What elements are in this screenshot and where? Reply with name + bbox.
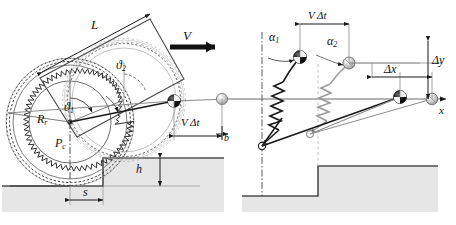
- label-travel-right: V Δt: [308, 10, 326, 21]
- alpha1-leader: [268, 58, 294, 61]
- theta1-sub: 1: [70, 106, 74, 115]
- Pc-sub: c: [62, 142, 66, 151]
- label-alpha2: α2: [327, 35, 337, 49]
- travel-right-v: V: [308, 9, 315, 21]
- spring-assembly-1: [262, 58, 299, 145]
- label-delta-x: Δx: [384, 63, 396, 75]
- travel-left-v: V: [181, 116, 188, 128]
- label-arm-length: L: [91, 18, 98, 31]
- label-x-axis: x: [439, 105, 444, 116]
- label-travel-left: V Δt: [181, 117, 199, 128]
- label-wheel-radius: Rr: [37, 113, 47, 127]
- dimension-v-dt-right: [300, 24, 349, 63]
- travel-right-dt: Δt: [317, 9, 327, 21]
- label-wheel-center: Pc: [55, 137, 66, 151]
- label-theta2: ϑ2: [116, 59, 126, 73]
- travel-left-dt: Δt: [190, 116, 200, 128]
- label-step-height: h: [136, 163, 142, 175]
- alpha2-sub: 2: [333, 40, 337, 49]
- label-step-distance: s: [83, 186, 88, 198]
- Rr-sub: r: [44, 118, 47, 127]
- alpha2-leader: [316, 55, 343, 65]
- label-body-offset: b: [224, 133, 229, 143]
- rocker-linkage: [258, 97, 432, 150]
- theta2-sub: 2: [122, 64, 126, 73]
- label-theta1: ϑ1: [64, 101, 74, 115]
- label-velocity: V: [183, 29, 191, 42]
- right-terrain: [242, 166, 438, 212]
- alpha1-sub: 1: [275, 36, 279, 45]
- label-delta-y: Δy: [432, 54, 444, 66]
- label-alpha1: α1: [269, 31, 279, 45]
- reference-axis: [262, 32, 318, 196]
- figure-root: L V ϑ2 ϑ1 Rr Pc V Δt b h s α1 α2 V Δt Δx…: [0, 0, 456, 225]
